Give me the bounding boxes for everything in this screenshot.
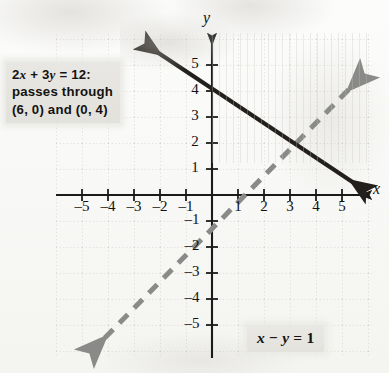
y-tick-label: 5 [184,55,206,72]
y-tick-label: –1 [181,211,203,228]
y-axis-label: y [203,9,210,27]
y-tick-label: 4 [184,81,206,98]
annotation-line-3: (6, 0) and (0, 4) [12,101,113,118]
y-tick-label: 3 [184,107,206,124]
x-tick-label: 4 [305,198,327,215]
x-tick-label: –3 [123,198,145,215]
y-tick-label: 2 [184,133,206,150]
x-tick-label: –4 [97,198,119,215]
annotation-line-1: 2x + 3y = 12: [12,66,113,83]
x-tick-label: 2 [253,198,275,215]
x-tick-label: 1 [227,198,249,215]
dashed-line-label: x − y = 1 [247,325,324,352]
y-tick-label: –2 [181,237,203,254]
x-axis-label: x [373,180,380,198]
y-tick-label: –3 [181,263,203,280]
x-tick-label: 5 [331,198,353,215]
graph-figure: y x –5 –4 –3 –2 –1 1 2 3 4 5 5 4 3 2 1 –… [0,0,389,373]
x-tick-label: –2 [149,198,171,215]
y-tick-label: –5 [181,315,203,332]
y-tick-label: 1 [184,159,206,176]
annotation-line-2: passes through [12,83,113,100]
equation-annotation: 2x + 3y = 12: passes through (6, 0) and … [6,62,120,123]
x-tick-label: 3 [279,198,301,215]
y-tick-label: –4 [181,289,203,306]
x-tick-label: –5 [71,198,93,215]
